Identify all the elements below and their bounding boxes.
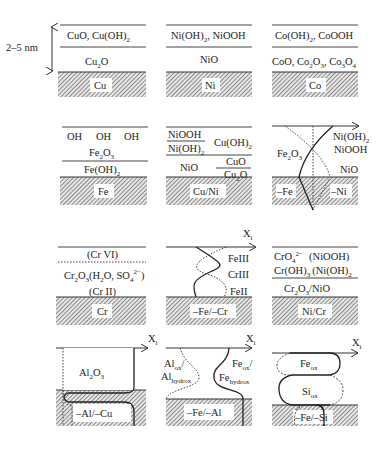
svg-text:(Cr VI): (Cr VI): [87, 249, 119, 261]
svg-text:FeII: FeII: [230, 286, 248, 297]
substrate-label: Cu/Ni: [193, 186, 219, 197]
panel-cr: (Cr VI) Cr2O3(H2O, SO42−) (Cr II) Cr: [56, 247, 146, 325]
panel-fe-al: Xi –Fe/–Al Alox/ Alhydrox Feox/ Fehydrox: [161, 333, 256, 426]
substrate-label: –Fe/–Si: [294, 412, 328, 423]
svg-text:Xi: Xi: [148, 333, 158, 347]
substrate-label: Ni/Cr: [302, 306, 326, 317]
substrate-label: Co: [309, 80, 321, 91]
svg-text:NiOOH: NiOOH: [334, 144, 368, 155]
svg-text:CrIII: CrIII: [228, 269, 249, 280]
substrate-label: Cu: [94, 80, 107, 91]
panel-fe: OH OH OH Fe2O3 Fe(OH)2 Fe: [60, 127, 148, 205]
svg-text:–Ni: –Ni: [330, 186, 347, 197]
layer-label: CuO, Cu(OH)2: [67, 30, 131, 44]
svg-text:CuO: CuO: [226, 156, 246, 167]
svg-text:OH: OH: [96, 131, 112, 142]
layer-label: Ni(OH)2, NiOOH: [171, 30, 246, 44]
svg-text:Cu(OH)2: Cu(OH)2: [214, 137, 252, 151]
svg-text:(Cr II): (Cr II): [89, 286, 117, 298]
svg-text:Fe(OH)2: Fe(OH)2: [84, 164, 121, 178]
substrate-label: Ni: [205, 80, 216, 91]
substrate-label: Fe: [98, 186, 109, 197]
svg-text:NiO: NiO: [180, 162, 199, 173]
svg-text:Alhydrox: Alhydrox: [161, 371, 192, 385]
substrate-label: Cr: [97, 306, 108, 317]
substrate-label: –Fe/–Al: [186, 407, 222, 418]
panel-fe-si: Xi Feox Siox –Fe/–Si: [272, 337, 362, 426]
substrate-label: –Fe/–Cr: [192, 306, 228, 317]
svg-text:Ni(OH)2: Ni(OH)2: [333, 131, 370, 145]
substrate-label: –Al/–Cu: [75, 408, 113, 419]
layer-label: CoO, Co2O3, Co3O4: [272, 56, 357, 70]
svg-text:Xi: Xi: [246, 333, 256, 347]
svg-text:OH: OH: [124, 131, 140, 142]
layer-label: Co(OH)2, CoOOH: [275, 30, 354, 44]
layer-label: Cu2O: [85, 56, 109, 70]
svg-text:FeIII: FeIII: [228, 253, 249, 264]
svg-text:Siox: Siox: [302, 386, 318, 400]
scale-label: 2–5 nm: [6, 42, 38, 53]
panel-ni-cr: CrO42−(NiOOH) Cr(OH)3(Ni(OH)2 Cr2O3/NiO …: [272, 247, 358, 325]
svg-text:Feox/: Feox/: [232, 358, 253, 372]
svg-text:–Fe: –Fe: [276, 186, 293, 197]
svg-text:Xi: Xi: [243, 228, 253, 242]
oxide-layer-diagram: 2–5 nm CuO, Cu(OH)2 Cu2O Cu Ni(OH)2, NiO…: [0, 0, 385, 449]
svg-text:Fehydrox: Fehydrox: [219, 372, 250, 386]
svg-text:Cr(OH)3(Ni(OH)2: Cr(OH)3(Ni(OH)2: [274, 265, 352, 279]
svg-text:NiO: NiO: [340, 164, 359, 175]
panel-fe-ni: –Fe –Ni Fe2O3 Ni(OH)2 NiOOH NiO: [272, 126, 370, 210]
svg-text:Alox/: Alox/: [164, 358, 185, 372]
panel-cu-ni: NiOOH Ni(OH)2 Cu(OH)2 NiO CuO Cu2O Cu/Ni: [166, 127, 252, 205]
svg-text:Xi: Xi: [352, 337, 362, 351]
svg-text:Cr2O3/NiO: Cr2O3/NiO: [284, 283, 331, 297]
panel-cu: CuO, Cu(OH)2 Cu2O Cu: [58, 25, 146, 97]
panel-co: Co(OH)2, CoOOH CoO, Co2O3, Co3O4 Co: [272, 25, 358, 97]
panel-al-cu: Xi Al2O3 –Al/–Cu: [56, 333, 158, 426]
panel-ni: Ni(OH)2, NiOOH NiO Ni: [166, 25, 252, 97]
svg-text:Fe2O3: Fe2O3: [89, 147, 115, 161]
svg-text:Cr2O3(H2O, SO42−): Cr2O3(H2O, SO42−): [64, 268, 145, 284]
svg-text:Fe2O3: Fe2O3: [277, 148, 303, 162]
panel-fe-cr: Xi FeIII CrIII FeII –Fe/–Cr: [166, 228, 256, 325]
svg-text:OH: OH: [67, 131, 83, 142]
layer-label: NiO: [200, 54, 219, 65]
svg-text:Feox: Feox: [300, 358, 318, 372]
svg-text:CrO42−(NiOOH): CrO42−(NiOOH): [274, 250, 350, 265]
scale-indicator: 2–5 nm: [6, 27, 52, 71]
svg-text:NiOOH: NiOOH: [168, 129, 202, 140]
